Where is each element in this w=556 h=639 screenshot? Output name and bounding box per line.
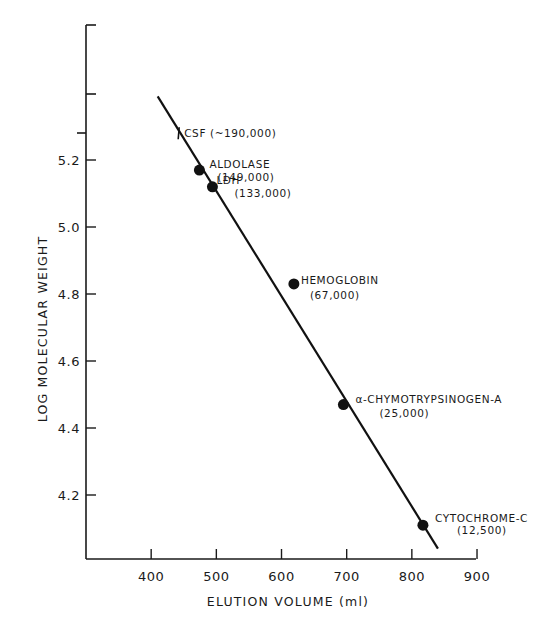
point-mw-label: (133,000) — [234, 187, 291, 199]
csf-label: CSF (~190,000) — [184, 127, 276, 139]
point-name-label: LDH — [216, 174, 240, 186]
x-tick-label: 600 — [268, 569, 294, 584]
y-tick-label: 5.2 — [58, 153, 80, 168]
y-axis-title: LOG MOLECULAR WEIGHT — [35, 236, 50, 423]
y-tick-label: 4.6 — [58, 354, 80, 369]
calibration-chart: 4.24.44.64.85.05.2 400500600700800900 LO… — [0, 0, 556, 639]
regression-line — [158, 96, 438, 548]
point-marker — [288, 278, 299, 289]
point-marker — [338, 399, 349, 410]
y-tick-label: 4.4 — [58, 421, 80, 436]
point-mw-label: (25,000) — [379, 407, 429, 419]
y-tick-label: 5.0 — [58, 220, 80, 235]
point-marker — [417, 520, 428, 531]
x-tick-label: 800 — [399, 569, 425, 584]
point-name-label: ALDOLASE — [209, 158, 270, 170]
y-tick-label: 4.8 — [58, 287, 80, 302]
y-tick-label: 4.2 — [58, 488, 80, 503]
point-name-label: CYTOCHROME-C — [435, 512, 528, 524]
data-point: α-CHYMOTRYPSINOGEN-A(25,000) — [338, 393, 502, 419]
data-points: ALDOLASE(149,000)LDH(133,000)HEMOGLOBIN(… — [194, 158, 528, 536]
csf-tick-marker — [178, 127, 179, 139]
point-mw-label: (67,000) — [310, 289, 360, 301]
x-tick-label: 900 — [464, 569, 490, 584]
x-tick-label: 700 — [334, 569, 360, 584]
x-tick-label: 400 — [138, 569, 164, 584]
x-ticks: 400500600700800900 — [138, 549, 490, 584]
data-point: CYTOCHROME-C(12,500) — [417, 512, 528, 536]
point-name-label: α-CHYMOTRYPSINOGEN-A — [355, 393, 502, 405]
y-ticks: 4.24.44.64.85.05.2 — [58, 153, 96, 503]
x-axis-title: ELUTION VOLUME (ml) — [207, 594, 369, 609]
point-marker — [194, 165, 205, 176]
x-tick-label: 500 — [203, 569, 229, 584]
data-point: HEMOGLOBIN(67,000) — [288, 274, 378, 301]
point-name-label: HEMOGLOBIN — [301, 274, 379, 286]
csf-annotation: CSF (~190,000) — [178, 127, 276, 139]
point-mw-label: (12,500) — [457, 524, 507, 536]
